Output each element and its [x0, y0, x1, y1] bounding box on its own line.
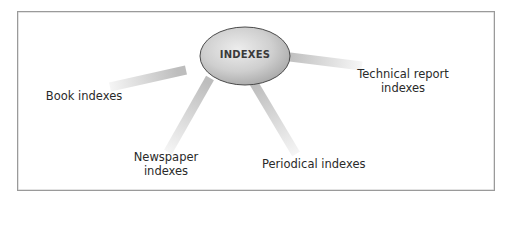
spoke-label-line: Technical report: [352, 67, 454, 81]
spoke-label-line: indexes: [352, 81, 454, 95]
hub-label: INDEXES: [199, 48, 291, 62]
spoke-label-periodical: Periodical indexes: [262, 157, 364, 171]
spoke-label-line: Newspaper: [126, 150, 206, 164]
spoke-label-line: Periodical indexes: [262, 157, 364, 171]
spoke-label-technical: Technical report indexes: [352, 67, 454, 95]
spoke-ray-newspaper: [168, 78, 210, 152]
spoke-label-newspaper: Newspaper indexes: [126, 150, 206, 178]
spoke-label-line: indexes: [126, 164, 206, 178]
spoke-ray-technical: [282, 56, 362, 66]
spoke-ray-book: [110, 70, 186, 87]
spoke-label-book: Book indexes: [44, 89, 124, 103]
spoke-ray-periodical: [252, 80, 296, 154]
spoke-label-line: Book indexes: [44, 89, 124, 103]
